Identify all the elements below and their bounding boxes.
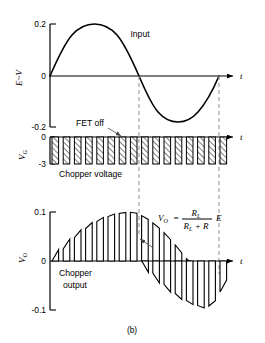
gate-pulse: [175, 137, 182, 164]
output-ytick-0p1: 0.1: [34, 207, 46, 217]
output-y-axis-label: VO: [17, 252, 28, 263]
output-formula: VO = RL RL + R E: [158, 208, 222, 232]
gate-pulse: [186, 137, 193, 164]
output-pulse: [52, 250, 59, 261]
input-ytick-0p2: 0.2: [34, 19, 46, 29]
output-pulse: [130, 212, 137, 261]
gate-pulse: [220, 137, 227, 164]
output-pulse: [175, 245, 182, 261]
output-pulse: [86, 223, 93, 261]
gate-pulse: [74, 137, 81, 164]
gate-pulse: [164, 137, 171, 164]
svg-text:VO: VO: [17, 252, 28, 263]
chopper-waveform-figure: 0.2 0 -0.2 E~V t Input: [0, 0, 265, 343]
output-pulse-train-positive: [52, 212, 189, 261]
gate-pulse: [209, 137, 216, 164]
output-pulse: [108, 214, 115, 261]
output-pulse: [142, 216, 149, 261]
formula-lhs: VO: [158, 213, 169, 224]
gate-pulse: [198, 137, 205, 164]
output-pulse: [74, 230, 81, 261]
gate-ytick-neg3: -3: [39, 159, 47, 169]
output-pulse: [164, 233, 171, 261]
input-x-axis-label: t: [240, 71, 243, 81]
output-pulse: [97, 217, 104, 261]
output-pulse: [153, 261, 160, 283]
figure-caption: (b): [127, 325, 137, 335]
output-pulse: [164, 261, 171, 292]
output-x-axis-label: t: [240, 256, 243, 266]
input-y-axis-label: E~V: [14, 69, 24, 87]
gate-pulse: [119, 137, 126, 164]
output-pulse: [186, 261, 193, 305]
formula-denominator: RL + R: [182, 221, 209, 232]
gate-ytick-0: 0: [41, 132, 46, 142]
output-pulse-train-negative: [142, 261, 227, 308]
gate-pulse: [97, 137, 104, 164]
figure-canvas: 0.2 0 -0.2 E~V t Input: [0, 0, 265, 343]
panel-chopper-output: VO = RL RL + R E 0.1 0 -0.1 VO: [17, 207, 243, 315]
gate-annotation: FET off: [76, 118, 104, 128]
output-pulse: [142, 261, 149, 272]
output-pulse: [198, 261, 205, 308]
output-ytick-neg0p1: -0.1: [32, 305, 47, 315]
output-pulse: [119, 212, 126, 261]
gate-pulse: [86, 137, 93, 164]
gate-y-axis-label-sub: G: [21, 149, 28, 154]
output-pulse: [209, 261, 216, 306]
formula-numerator: RL: [191, 208, 202, 219]
gate-pulse: [108, 137, 115, 164]
output-caption-line1: Chopper: [59, 268, 92, 278]
gate-caption: Chopper voltage: [59, 169, 122, 179]
formula-multiplier: E: [215, 213, 222, 223]
output-pulse: [153, 223, 160, 261]
output-pulse: [220, 261, 227, 292]
fet-off-leader-line: [108, 128, 121, 136]
input-ytick-0: 0: [41, 71, 46, 81]
input-ytick-neg0p2: -0.2: [32, 122, 47, 132]
gate-pulse: [130, 137, 137, 164]
gate-pulse: [52, 137, 59, 164]
gate-pulse: [63, 137, 70, 164]
output-pulse: [175, 261, 182, 299]
output-caption-line2: output: [63, 280, 88, 290]
svg-text:VG: VG: [17, 149, 28, 160]
gate-pulse: [153, 137, 160, 164]
output-pulse: [63, 239, 70, 261]
gate-pulse: [142, 137, 149, 164]
input-annotation: Input: [130, 29, 150, 39]
output-y-axis-label-sub: O: [21, 252, 28, 257]
gate-x-axis-label: t: [240, 132, 243, 142]
gate-y-axis-label: VG: [17, 149, 28, 160]
formula-equals: =: [173, 213, 179, 223]
output-ytick-0: 0: [41, 256, 46, 266]
